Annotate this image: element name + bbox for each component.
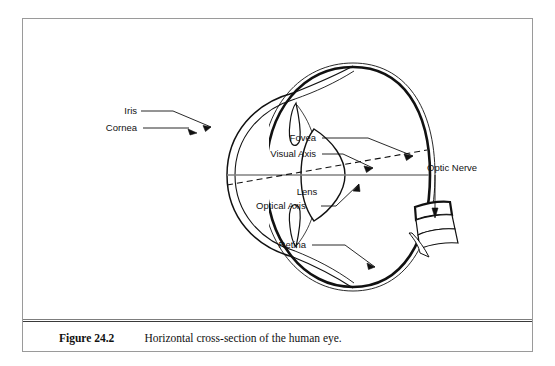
- label-cornea-group: Cornea: [106, 122, 197, 135]
- eye-diagram: Iris Cornea Lens Fovea: [23, 19, 532, 315]
- iris-label: Iris: [124, 105, 137, 116]
- figure-number: Figure 24.2: [59, 332, 114, 344]
- label-lens-group: Lens: [297, 186, 318, 197]
- optical-axis-label: Optical Axis: [256, 200, 306, 211]
- optic-nerve-label: Optic Nerve: [427, 162, 477, 173]
- figure-page: Iris Cornea Lens Fovea: [0, 0, 555, 366]
- fovea-label: Fovea: [290, 132, 317, 143]
- figure-caption: Figure 24.2 Horizontal cross-section of …: [23, 325, 532, 351]
- figure-caption-text: Horizontal cross-section of the human ey…: [144, 332, 341, 344]
- figure-frame: Iris Cornea Lens Fovea: [22, 18, 533, 352]
- label-iris-group: Iris: [124, 105, 211, 132]
- visual-axis-label: Visual Axis: [270, 148, 316, 159]
- eye-diagram-svg: Iris Cornea Lens Fovea: [23, 19, 532, 315]
- lens-label: Lens: [297, 186, 318, 197]
- cornea-label: Cornea: [106, 122, 138, 133]
- caption-divider: [23, 319, 532, 322]
- retina-label: Retina: [279, 239, 307, 250]
